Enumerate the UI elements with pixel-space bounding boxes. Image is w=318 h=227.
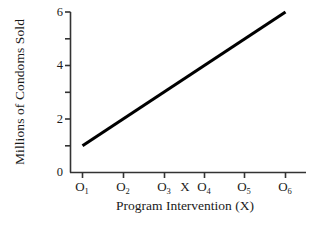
x-tick-base-o3: O xyxy=(157,179,166,194)
x-tick-label-o3: O3 xyxy=(157,180,171,195)
x-tick-sub-o3: 3 xyxy=(167,186,171,196)
y-tick-marks xyxy=(65,12,71,146)
x-tick-label-o6: O6 xyxy=(278,180,292,195)
x-tick-sub-o2: 2 xyxy=(126,186,130,196)
y-tick-label-4: 4 xyxy=(47,59,63,72)
intervention-marker-label: X xyxy=(180,180,189,193)
y-tick-label-6: 6 xyxy=(47,6,63,19)
x-tick-base-o2: O xyxy=(116,179,125,194)
x-axis-title: Program Intervention (X) xyxy=(60,198,310,214)
x-tick-base-o4: O xyxy=(197,179,206,194)
x-tick-label-o1: O1 xyxy=(75,180,89,195)
chart-container: Millions of Condoms Sold 6 4 2 xyxy=(0,0,318,227)
x-tick-label-o4: O4 xyxy=(197,180,211,195)
x-tick-base-o6: O xyxy=(278,179,287,194)
x-tick-base-o5: O xyxy=(237,179,246,194)
x-tick-sub-o6: 6 xyxy=(288,186,292,196)
y-tick-label-0: 0 xyxy=(47,166,63,179)
x-tick-label-o5: O5 xyxy=(237,180,251,195)
data-series-line xyxy=(83,12,286,146)
x-tick-sub-o4: 4 xyxy=(207,186,211,196)
x-tick-sub-o1: 1 xyxy=(85,186,89,196)
x-tick-base-o1: O xyxy=(75,179,84,194)
x-tick-sub-o5: 5 xyxy=(247,186,251,196)
x-tick-label-o2: O2 xyxy=(116,180,130,195)
y-tick-label-2: 2 xyxy=(47,113,63,126)
x-tick-marks xyxy=(83,173,286,179)
